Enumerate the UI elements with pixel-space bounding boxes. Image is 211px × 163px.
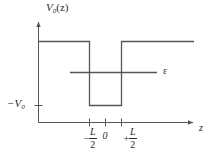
y-tick-label-subscript: 0 — [21, 103, 25, 111]
x-tick-label-right-denominator: 2 — [129, 140, 137, 151]
energy-level-label: ε — [163, 66, 167, 76]
x-tick-label-right-numerator: L — [129, 127, 137, 138]
x-tick-label-zero: 0 — [98, 131, 112, 141]
x-axis-label: z — [199, 123, 203, 133]
y-axis-title-argument: (z) — [56, 1, 68, 13]
y-axis-title-symbol: V — [46, 1, 53, 13]
y-tick-label-symbol: −V — [7, 97, 21, 109]
potential-well-figure: V0(z) −V0 ε z −L2 0 +L2 — [0, 0, 211, 163]
x-tick-label-plus-half-L: +L2 — [114, 128, 146, 151]
x-tick-label-left-numerator: L — [89, 127, 97, 138]
y-axis-title: V0(z) — [46, 2, 68, 15]
x-tick-label-right-fraction: L2 — [129, 127, 137, 150]
x-tick-label-left-denominator: 2 — [89, 140, 97, 151]
potential-curve — [38, 42, 194, 106]
y-tick-label-minus-v0: −V0 — [7, 98, 25, 111]
x-tick-label-left-fraction: L2 — [89, 127, 97, 150]
